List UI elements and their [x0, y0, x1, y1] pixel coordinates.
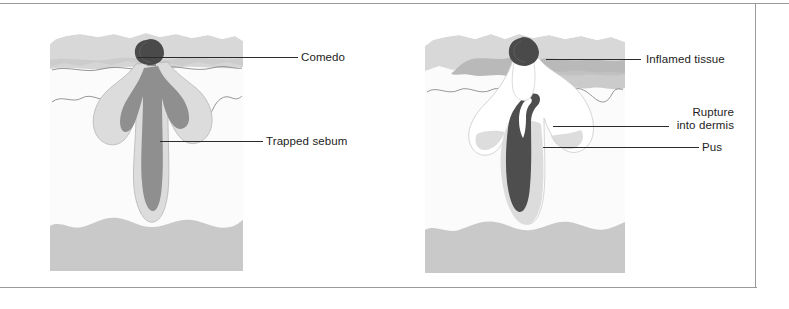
inflamed-lesion-illustration-svg	[425, 30, 625, 273]
page-bottom-rule	[0, 287, 757, 288]
label-rupture-into-dermis: Rupture into dermis	[620, 106, 734, 132]
closed-comedo-diagram	[50, 30, 243, 271]
label-pus: Pus	[702, 141, 722, 154]
label-trapped-sebum: Trapped sebum	[266, 135, 347, 148]
comedo-plug	[135, 39, 164, 65]
leader-line-comedo	[138, 57, 298, 58]
leader-line-pus	[543, 147, 699, 148]
label-comedo: Comedo	[301, 51, 345, 64]
label-inflamed-tissue: Inflamed tissue	[646, 53, 725, 66]
ruptured-lesion-diagram	[425, 30, 625, 273]
leader-line-trapped-sebum	[160, 141, 263, 142]
leader-line-inflamed-tissue	[546, 59, 641, 60]
comedo-illustration-svg	[50, 30, 243, 271]
page-right-rule	[755, 3, 756, 288]
illustration-page: Comedo Trapped sebum	[0, 0, 789, 309]
page-top-rule	[0, 3, 789, 4]
